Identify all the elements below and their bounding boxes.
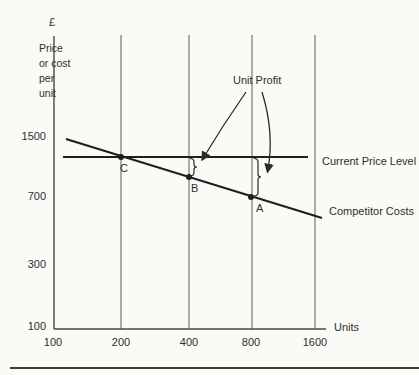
point-a-dot (248, 194, 254, 200)
experience-curve-figure: £ Price or cost per unit 1500 700 300 10… (0, 0, 419, 375)
y-tick-100: 100 (16, 320, 46, 333)
point-label-a: A (256, 202, 263, 215)
y-tick-700: 700 (16, 190, 46, 203)
page-divider-line (10, 367, 419, 369)
unit-profit-label: Unit Profit (233, 74, 281, 87)
point-label-c: C (120, 162, 128, 175)
competitor-costs-line (66, 139, 322, 218)
x-tick-1600: 1600 (295, 336, 335, 349)
unit-profit-arrow-left-icon (202, 92, 246, 160)
unit-profit-brace-a (254, 159, 261, 197)
x-tick-200: 200 (101, 336, 141, 349)
unit-profit-arrow-right-icon (262, 92, 270, 172)
unit-profit-brace-b (190, 159, 197, 177)
x-tick-400: 400 (169, 336, 209, 349)
current-price-level-label: Current Price Level (322, 155, 416, 168)
point-b-dot (186, 174, 192, 180)
point-label-b: B (191, 182, 198, 195)
y-tick-300: 300 (16, 258, 46, 271)
y-tick-1500: 1500 (16, 130, 46, 143)
x-tick-100: 100 (33, 336, 73, 349)
x-tick-800: 800 (231, 336, 271, 349)
x-axis-label: Units (334, 321, 359, 334)
y-axis-label: Price or cost per unit (39, 41, 71, 101)
currency-label: £ (49, 16, 55, 29)
vertical-gridlines (121, 35, 315, 329)
competitor-costs-label: Competitor Costs (329, 205, 414, 218)
point-c-dot (118, 154, 124, 160)
